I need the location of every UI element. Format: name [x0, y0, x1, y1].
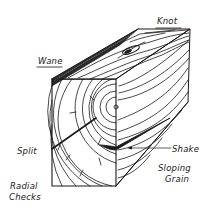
sloping-grain-label-line1: Sloping	[158, 163, 191, 173]
sloping-grain-label-line2: Grain	[165, 174, 189, 184]
radial-checks-label-line2: Checks	[9, 192, 41, 202]
radial-checks-label-line1: Radial	[10, 181, 38, 191]
shake-label: Shake	[172, 144, 199, 154]
end-grain-face	[48, 79, 118, 186]
timber-defects-diagram: Knot Wane Split Shake Sloping Grain Radi…	[0, 0, 213, 214]
knot-label: Knot	[157, 16, 177, 26]
wane-label: Wane	[38, 56, 63, 66]
split-label: Split	[17, 146, 37, 156]
